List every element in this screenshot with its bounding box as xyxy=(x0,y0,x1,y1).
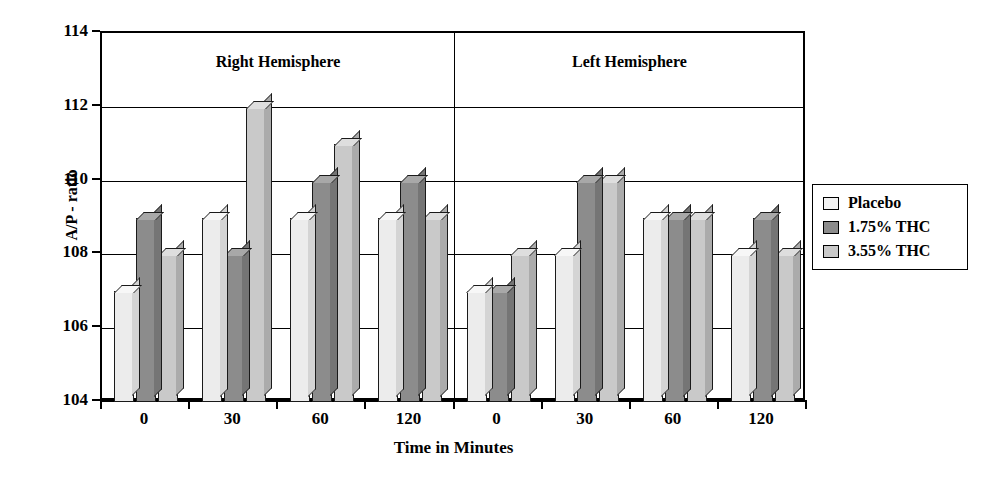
x-tick-mark xyxy=(717,400,719,409)
x-tick-label: 120 xyxy=(726,409,796,429)
bar-side-face xyxy=(132,277,140,396)
x-tick-label: 0 xyxy=(109,409,179,429)
legend-item[interactable]: 1.75% THC xyxy=(823,215,967,239)
bar-side-face xyxy=(418,167,426,396)
x-tick-label: 30 xyxy=(550,409,620,429)
x-tick-label: 60 xyxy=(638,409,708,429)
bar xyxy=(114,291,134,402)
x-tick-mark xyxy=(629,400,631,409)
bar-side-face xyxy=(661,204,669,397)
legend-swatch-icon xyxy=(823,245,839,258)
legend-label: 3.55% THC xyxy=(848,242,930,260)
bar xyxy=(643,218,663,403)
y-tick-mark xyxy=(92,399,100,401)
bar-side-face xyxy=(220,204,228,397)
bar-side-face xyxy=(396,204,404,397)
bar-side-face xyxy=(683,204,691,397)
y-tick-label: 108 xyxy=(44,243,88,260)
x-tick-mark xyxy=(364,400,366,409)
legend-label: Placebo xyxy=(848,194,901,212)
bar-side-face xyxy=(330,167,338,396)
bar xyxy=(290,218,310,403)
bar xyxy=(731,254,751,402)
plot-area: Right Hemisphere Left Hemisphere xyxy=(100,31,805,400)
bar-side-face xyxy=(793,240,801,396)
y-tick-mark xyxy=(92,178,100,180)
bar-side-face xyxy=(242,240,250,396)
bar-side-face xyxy=(573,240,581,396)
x-tick-label: 0 xyxy=(462,409,532,429)
bar-chart: A/P - ratio 114112110108106104 Right Hem… xyxy=(0,0,1006,481)
bar-side-face xyxy=(264,93,272,396)
x-tick-mark xyxy=(541,400,543,409)
x-tick-mark xyxy=(100,400,102,409)
y-tick-label: 112 xyxy=(44,96,88,113)
y-tick-mark xyxy=(92,325,100,327)
bar-side-face xyxy=(529,240,537,396)
bar-side-face xyxy=(154,204,162,397)
bar-side-face xyxy=(176,240,184,396)
bars-layer xyxy=(102,33,803,398)
bar-side-face xyxy=(749,240,757,396)
y-tick-mark xyxy=(92,104,100,106)
x-axis-title: Time in Minutes xyxy=(100,438,807,458)
legend-label: 1.75% THC xyxy=(848,218,930,236)
legend-swatch-icon xyxy=(823,221,839,234)
x-tick-label: 120 xyxy=(373,409,443,429)
legend-swatch-icon xyxy=(823,197,839,210)
bar-side-face xyxy=(705,204,713,397)
x-tick-label: 60 xyxy=(285,409,355,429)
y-tick-mark xyxy=(92,30,100,32)
y-tick-label: 104 xyxy=(44,391,88,408)
chart-legend: Placebo1.75% THC3.55% THC xyxy=(812,184,968,270)
bar-side-face xyxy=(440,204,448,397)
bar-side-face xyxy=(485,277,493,396)
x-tick-label: 30 xyxy=(197,409,267,429)
bar-side-face xyxy=(617,167,625,396)
bar xyxy=(378,218,398,403)
bar xyxy=(202,218,222,403)
y-tick-label: 114 xyxy=(44,22,88,39)
x-tick-mark xyxy=(453,400,455,409)
legend-item[interactable]: Placebo xyxy=(823,191,967,215)
y-tick-mark xyxy=(92,251,100,253)
x-tick-mark xyxy=(805,400,807,409)
legend-item[interactable]: 3.55% THC xyxy=(823,239,967,263)
bar-side-face xyxy=(771,204,779,397)
bar-side-face xyxy=(595,167,603,396)
y-tick-label: 110 xyxy=(44,170,88,187)
bar xyxy=(555,254,575,402)
bar-side-face xyxy=(308,204,316,397)
x-tick-mark xyxy=(188,400,190,409)
y-axis-title: A/P - ratio xyxy=(63,125,81,285)
bar-side-face xyxy=(507,277,515,396)
bar-side-face xyxy=(352,130,360,396)
bar xyxy=(467,291,487,402)
x-tick-mark xyxy=(276,400,278,409)
y-tick-label: 106 xyxy=(44,317,88,334)
